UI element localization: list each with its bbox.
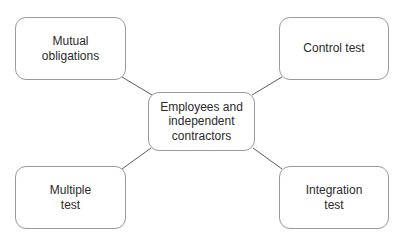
- edge-center-multiple: [122, 148, 151, 169]
- edge-center-integration: [253, 148, 282, 169]
- node-control-test: Control test: [279, 17, 389, 80]
- node-mutual-obligations: Mutual obligations: [15, 17, 126, 80]
- edge-center-control: [252, 77, 282, 95]
- node-multiple-test: Multiple test: [15, 166, 126, 229]
- node-center-employees: Employees and independent contractors: [148, 92, 255, 151]
- edge-center-mutual: [122, 77, 152, 95]
- node-integration-test: Integration test: [279, 166, 389, 229]
